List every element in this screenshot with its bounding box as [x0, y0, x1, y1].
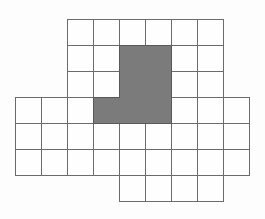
grid-cell [94, 46, 120, 72]
grid-cell [68, 20, 94, 46]
grid-cell [94, 150, 120, 176]
grid-cell [198, 20, 224, 46]
grid-cell [94, 124, 120, 150]
grid-cell [198, 176, 224, 202]
grid-cell [198, 150, 224, 176]
grid-cell [224, 98, 250, 124]
grid-cell [68, 72, 94, 98]
grid-cell [198, 124, 224, 150]
grid-cell [198, 98, 224, 124]
grid-cell [68, 98, 94, 124]
grid-cell [120, 150, 146, 176]
grid-cell [94, 72, 120, 98]
grid-cell [224, 150, 250, 176]
square-grid-figure [0, 0, 265, 219]
grid-cell [172, 20, 198, 46]
grid-cell [120, 20, 146, 46]
grid-cell [198, 72, 224, 98]
grid-cell [172, 98, 198, 124]
grid-cell [94, 20, 120, 46]
grid-cell [16, 124, 42, 150]
grid-cell [198, 46, 224, 72]
grid-cell [120, 124, 146, 150]
grid-cell [146, 124, 172, 150]
grid-cell [172, 72, 198, 98]
grid-cell [120, 176, 146, 202]
grid-cell [146, 20, 172, 46]
grid-cell [16, 150, 42, 176]
grid-cell [68, 46, 94, 72]
grid-cell [42, 98, 68, 124]
grid-cell [172, 150, 198, 176]
grid-cell [16, 98, 42, 124]
grid-cell [68, 124, 94, 150]
grid-cell [146, 150, 172, 176]
grid-cell [42, 124, 68, 150]
grid-cell [172, 46, 198, 72]
grid-cell [42, 150, 68, 176]
grid-cell [224, 124, 250, 150]
grid-cell [172, 124, 198, 150]
grid-canvas [0, 0, 265, 219]
grid-cell [146, 176, 172, 202]
grid-cell [172, 176, 198, 202]
grid-cell [68, 150, 94, 176]
